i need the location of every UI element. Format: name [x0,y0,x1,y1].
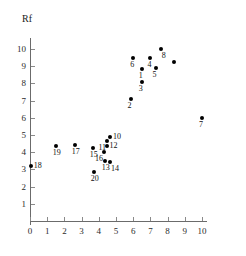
data-point-label: 12 [110,142,118,150]
y-tick-mark [31,101,35,102]
plot-area: Rf 12345678910 012345678910 181917152016… [0,0,246,256]
x-tick-mark [47,217,48,221]
x-axis-line [30,221,207,222]
y-tick-mark [31,49,35,50]
x-tick-label: 5 [108,227,124,236]
y-tick-label: 3 [8,165,26,174]
data-point-label: 3 [139,85,143,93]
data-point-label: 19 [53,149,61,157]
y-tick-mark [31,118,35,119]
y-tick-mark [31,204,35,205]
y-tick-label: 4 [8,148,26,157]
y-tick-label: 9 [8,62,26,71]
x-tick-label: 0 [22,227,38,236]
y-tick-label: 8 [8,79,26,88]
x-tick-mark [150,217,151,221]
x-tick-label: 2 [56,227,72,236]
data-point-marker [29,164,33,168]
x-tick-mark [133,217,134,221]
data-point-marker [148,56,152,60]
x-tick-label: 3 [74,227,90,236]
data-point-label: 7 [199,121,203,129]
x-tick-mark [82,217,83,221]
x-tick-label: 6 [125,227,141,236]
x-tick-label: 10 [194,227,210,236]
data-point-label: 5 [153,71,157,79]
x-tick-label: 8 [160,227,176,236]
data-point-label: 17 [72,148,80,156]
data-point-label: 8 [162,52,166,60]
data-point-label: 13 [102,164,110,172]
y-tick-label: 6 [8,114,26,123]
x-tick-label: 1 [39,227,55,236]
x-tick-mark [116,217,117,221]
data-point-marker [131,56,135,60]
x-tick-mark [185,217,186,221]
y-tick-label: 10 [8,45,26,54]
x-tick-mark [99,217,100,221]
data-point-marker [172,60,176,64]
x-tick-mark [168,217,169,221]
x-tick-mark [64,217,65,221]
y-tick-label: 5 [8,131,26,140]
x-tick-label: 9 [177,227,193,236]
x-tick-mark [202,217,203,221]
data-point-label: 14 [111,165,119,173]
data-point-label: 16 [95,155,103,163]
x-tick-mark [30,217,31,221]
y-tick-label: 7 [8,97,26,106]
y-tick-mark [31,135,35,136]
data-point-label: 6 [130,61,134,69]
data-point-label: 2 [128,102,132,110]
y-axis-title: Rf [22,14,32,24]
data-point-marker [108,135,112,139]
y-tick-mark [31,66,35,67]
x-tick-label: 4 [91,227,107,236]
y-tick-label: 1 [8,200,26,209]
data-point-label: 20 [91,175,99,183]
data-point-label: 11 [98,144,106,152]
y-tick-mark [31,187,35,188]
data-point-label: 18 [34,162,42,170]
data-point-label: 1 [139,72,143,80]
x-tick-label: 7 [142,227,158,236]
scatter-plot: Rf 12345678910 012345678910 181917152016… [0,0,246,256]
y-tick-mark [31,152,35,153]
y-tick-mark [31,83,35,84]
data-point-label: 4 [147,61,151,69]
y-tick-label: 2 [8,183,26,192]
data-point-label: 10 [113,133,121,141]
